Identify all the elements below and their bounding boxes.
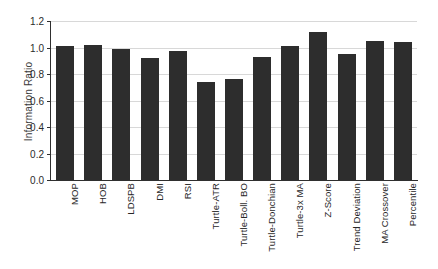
y-axis-tick-label: 1.0 bbox=[30, 42, 44, 53]
x-axis-line bbox=[50, 180, 418, 181]
bar-slot bbox=[276, 21, 304, 180]
x-axis-tick-label: Z-Score bbox=[322, 183, 333, 217]
x-axis-tick-labels: MOPHOBLDSPBDMIRSITurtle-ATRTurtle-Boll. … bbox=[51, 183, 417, 269]
bar-slot bbox=[304, 21, 332, 180]
bar[interactable] bbox=[225, 79, 243, 180]
bar[interactable] bbox=[253, 57, 271, 180]
bar-series bbox=[51, 21, 417, 180]
x-axis-tick-label: LDSPB bbox=[125, 183, 136, 215]
y-axis-tick-label: 1.2 bbox=[30, 16, 44, 27]
bar-slot bbox=[333, 21, 361, 180]
bar[interactable] bbox=[338, 54, 356, 180]
bar-slot bbox=[107, 21, 135, 180]
x-axis-tick-label: Turtle-Boll. BO bbox=[238, 183, 249, 246]
plot-area: 0.00.20.40.60.81.01.2 bbox=[51, 21, 417, 180]
y-axis-tick-mark bbox=[47, 180, 51, 181]
y-axis-tick-label: 0.6 bbox=[30, 95, 44, 106]
x-axis-tick-label: Trend Deviation bbox=[351, 183, 362, 251]
bar-slot bbox=[220, 21, 248, 180]
x-axis-tick-label: MA Crossover bbox=[379, 183, 390, 244]
bar[interactable] bbox=[366, 41, 384, 180]
bar[interactable] bbox=[56, 46, 74, 180]
y-axis-tick-label: 0.8 bbox=[30, 69, 44, 80]
bar-slot bbox=[192, 21, 220, 180]
y-axis-tick-label: 0.4 bbox=[30, 122, 44, 133]
y-axis-tick-label: 0.2 bbox=[30, 148, 44, 159]
bar[interactable] bbox=[394, 42, 412, 180]
x-axis-tick-label: Turtle-Donchian bbox=[266, 183, 277, 252]
bar-slot bbox=[79, 21, 107, 180]
bar[interactable] bbox=[197, 82, 215, 180]
x-axis-tick-label: Percentile bbox=[407, 183, 418, 226]
bar-slot bbox=[164, 21, 192, 180]
bar[interactable] bbox=[169, 51, 187, 180]
x-axis-tick-label: MOP bbox=[69, 183, 80, 205]
bar[interactable] bbox=[281, 46, 299, 180]
bar[interactable] bbox=[141, 58, 159, 180]
x-axis-tick-label: Turtle-ATR bbox=[210, 183, 221, 229]
x-axis-tick-label: Turtle-3x MA bbox=[294, 183, 305, 238]
x-axis-tick-label: HOB bbox=[97, 183, 108, 204]
bar-slot bbox=[248, 21, 276, 180]
bar[interactable] bbox=[84, 45, 102, 180]
bar[interactable] bbox=[112, 49, 130, 180]
information-ratio-bar-chart: Information Ratio 0.00.20.40.60.81.01.2 … bbox=[0, 0, 438, 269]
bar-slot bbox=[389, 21, 417, 180]
y-axis-tick-label: 0.0 bbox=[30, 175, 44, 186]
bar-slot bbox=[135, 21, 163, 180]
bar-slot bbox=[361, 21, 389, 180]
bar[interactable] bbox=[309, 32, 327, 180]
x-axis-tick-label: RSI bbox=[182, 183, 193, 199]
bar-slot bbox=[51, 21, 79, 180]
x-axis-tick-label: DMI bbox=[154, 183, 165, 201]
